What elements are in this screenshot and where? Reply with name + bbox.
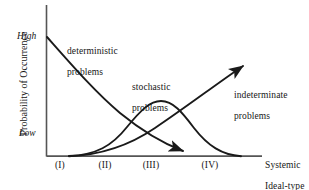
label-stochastic-line2: problems <box>132 103 168 113</box>
x-axis-title-line2: Ideal-type <box>265 181 305 190</box>
diagram-canvas: Probability of Occurrence High Low deter… <box>0 0 309 190</box>
label-stochastic-problems: stochastic problems <box>132 72 170 113</box>
label-indeterminate-line2: problems <box>234 111 270 121</box>
x-axis-title: Systemic Ideal-type <box>265 149 305 190</box>
x-axis-title-line1: Systemic <box>265 160 301 170</box>
x-tick-label-1: (I) <box>40 160 80 170</box>
label-stochastic-line1: stochastic <box>132 82 170 92</box>
label-indeterminate-problems: indeterminate problems <box>234 80 288 121</box>
x-tick-label-3: (III) <box>131 160 171 170</box>
label-deterministic-line2: problems <box>67 67 103 77</box>
x-tick-label-4: (IV) <box>190 160 230 170</box>
label-indeterminate-line1: indeterminate <box>234 90 288 100</box>
label-deterministic-line1: deterministic <box>67 46 118 56</box>
y-axis-high-label: High <box>17 31 36 41</box>
x-tick-label-2: (II) <box>85 160 125 170</box>
y-axis-low-label: Low <box>19 128 36 138</box>
label-deterministic-problems: deterministic problems <box>67 36 118 77</box>
